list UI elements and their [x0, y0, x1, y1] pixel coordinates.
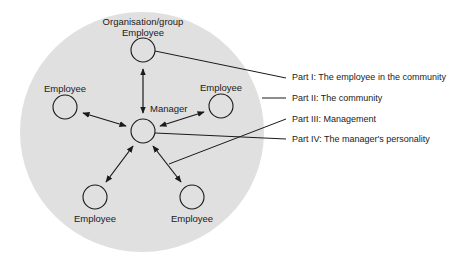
part-1-label: Part I: The employee in the community — [292, 73, 446, 82]
part-2-label: Part II: The community — [292, 94, 382, 103]
employee-label-bottom-right: Employee — [171, 214, 213, 224]
employee-label-bottom-left: Employee — [74, 214, 116, 224]
manager-label: Manager — [150, 104, 188, 114]
organisation-group-circle — [20, 12, 264, 252]
part-3-label: Part III: Management — [292, 115, 376, 124]
employee-label-right: Employee — [200, 83, 242, 93]
group-label: Organisation/group — [103, 17, 184, 27]
employee-label-left: Employee — [44, 84, 86, 94]
organisation-diagram — [0, 0, 468, 260]
part-4-label: Part IV: The manager's personality — [292, 135, 430, 144]
employee-label-top: Employee — [122, 28, 164, 38]
